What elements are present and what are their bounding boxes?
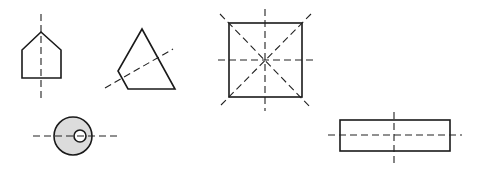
ring-figure xyxy=(33,117,120,155)
pentagon-figure xyxy=(22,14,61,100)
kite-figure xyxy=(105,29,175,89)
kite-symmetry-axis-1 xyxy=(105,49,173,88)
rectangle-figure xyxy=(328,112,462,165)
square-figure xyxy=(218,9,314,111)
kite-outline xyxy=(118,29,175,89)
symmetry-figures-diagram xyxy=(0,0,477,171)
square-symmetry-axis-3 xyxy=(220,14,311,108)
